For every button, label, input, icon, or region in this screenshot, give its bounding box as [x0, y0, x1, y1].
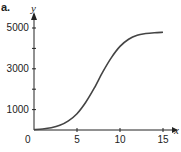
part-label: a. — [1, 2, 10, 13]
y-tick-label: 5000 — [7, 23, 29, 33]
y-tick-label: 1000 — [7, 105, 29, 115]
x-tick-label: 0 — [25, 135, 31, 145]
x-tick-label: 5 — [74, 135, 80, 145]
y-axis-name: y — [31, 3, 36, 14]
x-tick-label: 15 — [157, 135, 168, 145]
data-curve — [34, 32, 163, 129]
x-axis-name: x — [174, 125, 179, 136]
y-tick-label: 3000 — [7, 64, 29, 74]
x-tick-label: 10 — [114, 135, 125, 145]
